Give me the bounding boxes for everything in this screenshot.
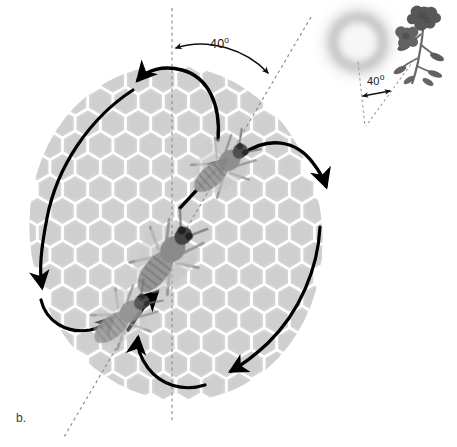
- panel-label: b.: [16, 411, 26, 425]
- figure-container: 40o: [0, 0, 457, 447]
- honeycomb-cell: [226, 372, 251, 401]
- figure-canvas: 40o: [0, 0, 457, 447]
- inset-angle-label: 40o: [367, 72, 385, 87]
- sun-glow: [330, 14, 386, 70]
- honeycomb-cell: [37, 306, 62, 335]
- sun-and-flower-inset: 40o: [330, 6, 445, 126]
- honeycomb-cell: [50, 328, 75, 357]
- honeycomb-cell: [126, 372, 151, 401]
- honeycomb-cell: [264, 350, 289, 379]
- flower-cluster: [392, 6, 445, 88]
- inset-angle-arrow: [363, 91, 390, 96]
- honeycomb-cell: [100, 372, 125, 401]
